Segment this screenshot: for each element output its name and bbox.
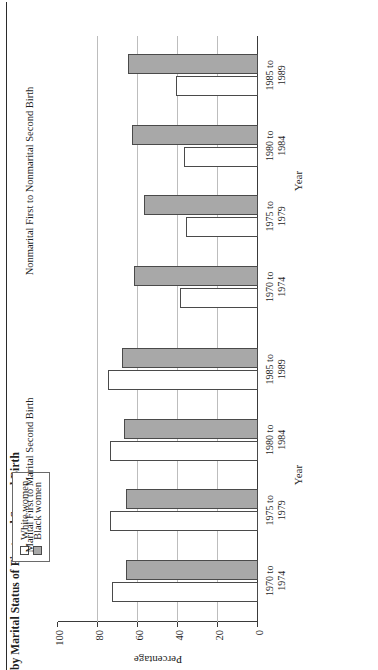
- category-label-line2: 1989: [276, 326, 288, 412]
- bar-group: 1970 to1974: [58, 560, 258, 602]
- value-tick-20: [217, 622, 218, 627]
- bar-group: 1980 to1984: [58, 125, 258, 167]
- bar-group: 1985 to1989: [58, 348, 258, 390]
- figure-title: by Marital Status of First and Second Bi…: [9, 2, 21, 670]
- bar-group: 1970 to1974: [58, 266, 258, 308]
- bar-black-women: [124, 419, 258, 439]
- value-axis-title: Percentage: [134, 654, 182, 666]
- panel-1-category-axis-title: Year: [292, 40, 304, 322]
- bar-black-women: [144, 195, 258, 215]
- figure-stage: by Marital Status of First and Second Bi…: [0, 0, 378, 670]
- bar-white-women: [176, 76, 258, 96]
- bar-black-women: [134, 266, 258, 286]
- category-label: 1985 to1989: [264, 326, 287, 412]
- bar-white-women: [180, 288, 258, 308]
- bar-black-women: [132, 125, 258, 145]
- panel-0-title: Marital First to Marital Second Birth: [24, 334, 35, 616]
- value-label-20: 20: [214, 630, 225, 656]
- bar-group: 1975 to1979: [58, 489, 258, 531]
- category-label-line2: 1989: [276, 32, 288, 118]
- value-tick-40: [177, 622, 178, 627]
- value-tick-100: [57, 622, 58, 627]
- bar-black-women: [128, 54, 258, 74]
- bar-white-women: [186, 217, 258, 237]
- value-label-40: 40: [174, 630, 185, 656]
- bar-white-women: [110, 441, 258, 461]
- bar-black-women: [126, 560, 258, 580]
- panel-1-title: Nonmarital First to Nonmarital Second Bi…: [24, 40, 35, 322]
- value-label-100: 100: [54, 630, 65, 656]
- category-label-line1: 1985 to: [264, 32, 276, 118]
- panel-0-category-axis-title: Year: [292, 334, 304, 616]
- figure-viewport: by Marital Status of First and Second Bi…: [0, 0, 378, 670]
- panel-nonmarital-first-to-nonmarital-second: Nonmarital First to Nonmarital Second Bi…: [58, 40, 258, 322]
- category-label-line1: 1985 to: [264, 326, 276, 412]
- bar-white-women: [184, 147, 258, 167]
- figure-top-rule: [6, 2, 7, 670]
- category-label: 1985 to1989: [264, 32, 287, 118]
- bar-group: 1975 to1979: [58, 195, 258, 237]
- plot-area: 0 20 40 60 80 100 Percentage Marital Fir…: [58, 36, 258, 622]
- bar-white-women: [112, 582, 258, 602]
- bar-group: 1980 to1984: [58, 419, 258, 461]
- panel-marital-first-to-marital-second: Marital First to Marital Second Birth Ye…: [58, 334, 258, 616]
- value-tick-80: [97, 622, 98, 627]
- bar-white-women: [108, 370, 258, 390]
- bar-black-women: [122, 348, 258, 368]
- value-label-60: 60: [134, 630, 145, 656]
- bar-group: 1985 to1989: [58, 54, 258, 96]
- value-label-0: 0: [254, 630, 265, 656]
- value-label-80: 80: [94, 630, 105, 656]
- bar-black-women: [126, 489, 258, 509]
- value-tick-60: [137, 622, 138, 627]
- value-tick-0: [257, 622, 258, 627]
- bar-white-women: [110, 511, 258, 531]
- value-axis-line: [58, 621, 258, 622]
